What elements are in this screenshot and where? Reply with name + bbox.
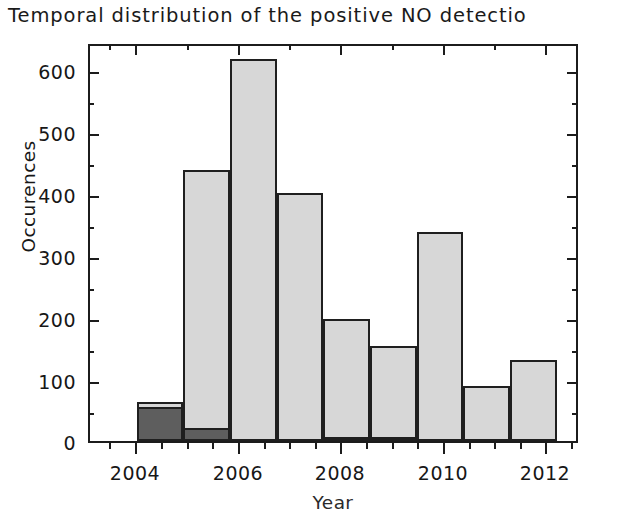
x-tick-2008 bbox=[340, 443, 342, 454]
x-tick-minor-2011 bbox=[494, 443, 496, 449]
x-tick-label-2010: 2010 bbox=[418, 462, 468, 484]
y-tick-right-400 bbox=[567, 196, 578, 198]
x-tick-minor-2007 bbox=[289, 443, 291, 449]
x-tick-top-minor-2003-5 bbox=[109, 44, 111, 50]
bar-total-2006 bbox=[230, 59, 277, 441]
x-tick-minor-2005-5 bbox=[212, 443, 214, 449]
plot-area bbox=[88, 44, 578, 443]
y-tick-200 bbox=[88, 320, 99, 322]
bar-total-2005 bbox=[183, 170, 230, 441]
x-axis-title: Year bbox=[88, 492, 578, 510]
y-tick-label-400: 400 bbox=[38, 185, 76, 207]
bar-subset-2005 bbox=[183, 428, 230, 441]
y-tick-right-minor-150 bbox=[572, 351, 578, 353]
x-tick-top-2004 bbox=[135, 44, 137, 55]
x-tick-label-2012: 2012 bbox=[520, 462, 570, 484]
y-tick-right-minor-550 bbox=[572, 103, 578, 105]
x-tick-top-2006 bbox=[238, 44, 240, 55]
x-tick-2006 bbox=[238, 443, 240, 454]
x-tick-minor-2005 bbox=[187, 443, 189, 449]
y-tick-label-300: 300 bbox=[38, 247, 76, 269]
y-tick-label-600: 600 bbox=[38, 61, 76, 83]
x-tick-top-minor-2007 bbox=[289, 44, 291, 50]
y-tick-label-0: 0 bbox=[63, 432, 76, 454]
bar-total-2009 bbox=[370, 346, 417, 441]
bar-subset-2004 bbox=[137, 407, 184, 441]
chart-title: Temporal distribution of the positive NO… bbox=[8, 4, 624, 27]
y-tick-minor-250 bbox=[88, 289, 94, 291]
y-tick-100 bbox=[88, 382, 99, 384]
y-tick-right-600 bbox=[567, 72, 578, 74]
y-tick-minor-350 bbox=[88, 227, 94, 229]
y-tick-minor-550 bbox=[88, 103, 94, 105]
y-tick-right-minor-50 bbox=[572, 413, 578, 415]
y-tick-right-minor-450 bbox=[572, 165, 578, 167]
y-tick-label-500: 500 bbox=[38, 123, 76, 145]
x-tick-top-minor-2005 bbox=[187, 44, 189, 50]
y-tick-right-300 bbox=[567, 258, 578, 260]
y-tick-600 bbox=[88, 72, 99, 74]
y-tick-right-200 bbox=[567, 320, 578, 322]
y-tick-300 bbox=[88, 258, 99, 260]
x-tick-top-minor-2011 bbox=[494, 44, 496, 50]
bars-layer bbox=[90, 46, 576, 441]
chart-figure: Temporal distribution of the positive NO… bbox=[0, 0, 624, 510]
y-tick-right-500 bbox=[567, 134, 578, 136]
x-tick-minor-2012-5 bbox=[571, 443, 573, 449]
x-tick-2010 bbox=[443, 443, 445, 454]
x-tick-label-2004: 2004 bbox=[110, 462, 160, 484]
y-tick-label-100: 100 bbox=[38, 371, 76, 393]
x-tick-minor-2004-5 bbox=[161, 443, 163, 449]
x-tick-minor-2010-5 bbox=[469, 443, 471, 449]
y-tick-500 bbox=[88, 134, 99, 136]
y-tick-label-200: 200 bbox=[38, 309, 76, 331]
y-tick-right-minor-350 bbox=[572, 227, 578, 229]
x-tick-label-2008: 2008 bbox=[315, 462, 365, 484]
bar-total-2007 bbox=[277, 193, 324, 441]
bar-total-2008 bbox=[323, 319, 370, 441]
bar-total-2012 bbox=[510, 360, 557, 441]
x-tick-2012 bbox=[545, 443, 547, 454]
x-tick-minor-2009 bbox=[392, 443, 394, 449]
y-tick-minor-150 bbox=[88, 351, 94, 353]
x-tick-top-2012 bbox=[545, 44, 547, 55]
y-tick-400 bbox=[88, 196, 99, 198]
x-tick-minor-2003-5 bbox=[109, 443, 111, 449]
y-tick-minor-450 bbox=[88, 165, 94, 167]
y-tick-right-minor-250 bbox=[572, 289, 578, 291]
x-tick-top-minor-2009 bbox=[392, 44, 394, 50]
bar-subset-2009 bbox=[370, 437, 417, 441]
x-tick-2004 bbox=[135, 443, 137, 454]
bar-total-2011 bbox=[463, 386, 510, 441]
bar-subset-2008 bbox=[323, 437, 370, 441]
bar-total-2010 bbox=[417, 232, 464, 441]
x-tick-minor-2006-5 bbox=[264, 443, 266, 449]
x-tick-minor-2009-5 bbox=[417, 443, 419, 449]
y-tick-right-100 bbox=[567, 382, 578, 384]
x-tick-top-2010 bbox=[443, 44, 445, 55]
x-tick-label-2006: 2006 bbox=[213, 462, 263, 484]
y-axis-title: Occurences bbox=[18, 107, 39, 287]
x-tick-minor-2011-5 bbox=[520, 443, 522, 449]
x-tick-top-2008 bbox=[340, 44, 342, 55]
y-tick-minor-50 bbox=[88, 413, 94, 415]
x-tick-minor-2008-5 bbox=[366, 443, 368, 449]
x-tick-minor-2007-5 bbox=[315, 443, 317, 449]
